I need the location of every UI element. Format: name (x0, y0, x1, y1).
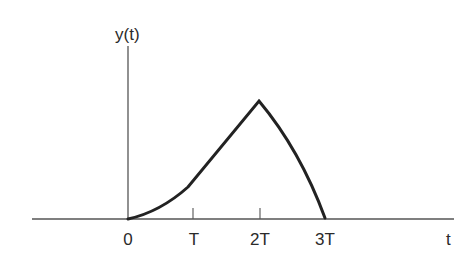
waveform-diagram: y(t) t 0 T 2T 3T (0, 0, 472, 263)
tick-label-0: 0 (123, 230, 132, 249)
signal-curve (128, 101, 325, 219)
y-axis-label: y(t) (115, 25, 140, 44)
tick-label-2T: 2T (250, 230, 270, 249)
tick-label-3T: 3T (315, 230, 335, 249)
x-axis-label: t (446, 230, 451, 249)
tick-label-T: T (189, 230, 199, 249)
